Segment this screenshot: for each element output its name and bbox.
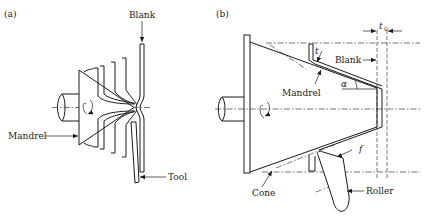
tool-label-a: Tool xyxy=(168,172,187,182)
alpha-arc xyxy=(355,81,357,89)
mandrel-label-b: Mandrel xyxy=(282,88,321,98)
cone-angle-ref-top xyxy=(270,45,306,69)
roller-b xyxy=(317,151,349,211)
panel-b-label: (b) xyxy=(216,9,229,19)
t0-subscript: 0 xyxy=(384,25,388,32)
mandrel-leader-b xyxy=(315,70,321,84)
panel-a-label: (a) xyxy=(4,9,16,19)
cone-leader-b xyxy=(262,171,272,187)
roller-label-b: Roller xyxy=(366,186,394,196)
tool-a xyxy=(131,122,139,183)
blank-label-b: Blank xyxy=(335,55,362,65)
t0-label: t xyxy=(379,21,383,31)
t-label: t xyxy=(315,46,319,56)
feed-label: f xyxy=(358,144,364,154)
mandrel-label-a: Mandrel xyxy=(8,131,47,141)
rotation-arrow-b xyxy=(260,102,269,118)
alpha-label: α xyxy=(341,79,347,89)
panel-b: (b) t 0 xyxy=(215,9,420,211)
cone-label-b: Cone xyxy=(252,188,275,198)
t0-dimension: t 0 xyxy=(363,21,402,32)
panel-a: (a) xyxy=(4,9,187,183)
faceplate-b xyxy=(244,35,250,173)
spinning-process-diagram: (a) xyxy=(0,0,424,222)
blank-label-a: Blank xyxy=(129,10,156,20)
feed-arrow xyxy=(337,150,352,157)
